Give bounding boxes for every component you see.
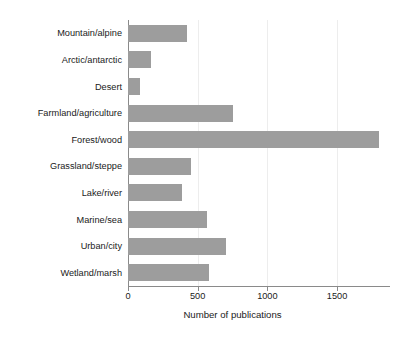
- bar[interactable]: [128, 211, 207, 228]
- bar[interactable]: [128, 158, 191, 175]
- bar[interactable]: [128, 25, 187, 42]
- plot-area: [128, 20, 390, 286]
- y-tick-label: Mountain/alpine: [0, 28, 122, 38]
- bar-chart-figure: Mountain/alpineArctic/antarcticDesertFar…: [0, 0, 399, 338]
- chart-title: [0, 0, 399, 6]
- bar-row[interactable]: [128, 126, 390, 153]
- bar-row[interactable]: [128, 180, 390, 207]
- y-tick-label: Desert: [0, 82, 122, 92]
- x-axis-title-text: Number of publications: [183, 309, 281, 320]
- x-axis-line: [128, 286, 390, 287]
- y-tick-label: Urban/city: [0, 241, 122, 251]
- bar[interactable]: [128, 105, 233, 122]
- bar-row[interactable]: [128, 73, 390, 100]
- x-tick-label: 0: [125, 291, 130, 302]
- y-tick-label: Grassland/steppe: [0, 161, 122, 171]
- bar[interactable]: [128, 51, 151, 68]
- x-tick-label: 500: [190, 291, 205, 302]
- bar[interactable]: [128, 264, 209, 281]
- y-tick-label: Wetland/marsh: [0, 268, 122, 278]
- bar[interactable]: [128, 131, 379, 148]
- x-tick-label: 1500: [327, 291, 347, 302]
- bar-row[interactable]: [128, 100, 390, 127]
- y-tick-label: Marine/sea: [0, 215, 122, 225]
- bar-row[interactable]: [128, 153, 390, 180]
- x-axis-title: Number of publications: [0, 309, 399, 320]
- y-tick-label: Arctic/antarctic: [0, 55, 122, 65]
- y-tick-label: Forest/wood: [0, 135, 122, 145]
- y-tick-label: Farmland/agriculture: [0, 108, 122, 118]
- bar-row[interactable]: [128, 233, 390, 260]
- y-tick-label: Lake/river: [0, 188, 122, 198]
- bar-row[interactable]: [128, 206, 390, 233]
- bar[interactable]: [128, 184, 182, 201]
- bar[interactable]: [128, 78, 140, 95]
- x-tick-label: 1000: [257, 291, 277, 302]
- bar-row[interactable]: [128, 20, 390, 47]
- bar-row[interactable]: [128, 47, 390, 74]
- bar[interactable]: [128, 238, 226, 255]
- bar-row[interactable]: [128, 259, 390, 286]
